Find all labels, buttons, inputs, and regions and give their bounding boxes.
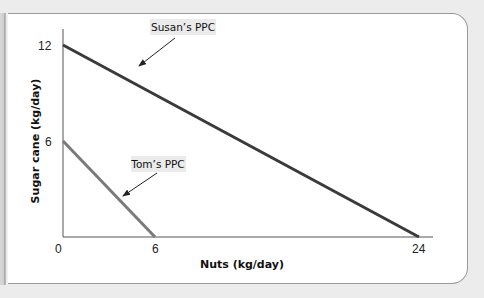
x-axis-title: Nuts (kg/day) xyxy=(200,258,284,271)
toms-ppc-line xyxy=(63,141,155,237)
toms-ppc-arrow xyxy=(123,173,157,196)
susans-ppc-arrow xyxy=(139,38,175,66)
x-tick-6: 6 xyxy=(152,242,159,256)
y-axis-title: Sugar cane (kg/day) xyxy=(29,79,42,204)
x-tick-24: 24 xyxy=(412,242,426,256)
x-tick-0: 0 xyxy=(55,242,62,256)
susans-ppc-label: Susan’s PPC xyxy=(151,21,215,33)
toms-ppc-label: Tom’s PPC xyxy=(130,158,184,170)
y-tick-6: 6 xyxy=(45,135,52,149)
ppc-chart: 12 6 0 6 24 Nuts (kg/day) Sugar cane (kg… xyxy=(0,0,484,298)
susans-ppc-line xyxy=(63,45,419,237)
y-tick-12: 12 xyxy=(38,39,52,53)
